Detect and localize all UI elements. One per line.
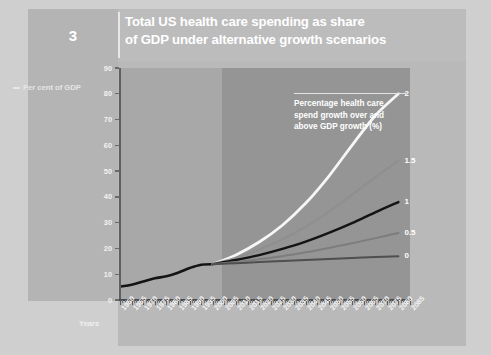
y-tick bbox=[115, 222, 119, 223]
annotation-rule bbox=[294, 93, 406, 94]
y-axis-title: Per cent of GDP bbox=[13, 83, 81, 92]
y-tick-label: 30 bbox=[90, 218, 112, 227]
figure-root: 3 Total US health care spending as share… bbox=[0, 0, 491, 355]
y-tick-label: 0 bbox=[90, 296, 112, 305]
y-tick bbox=[115, 119, 119, 120]
series-label-0-5: 0.5 bbox=[404, 228, 415, 237]
y-tick bbox=[115, 196, 119, 197]
page-title: Total US health care spending as share o… bbox=[125, 13, 461, 48]
y-tick bbox=[115, 145, 119, 146]
y-tick-label: 10 bbox=[90, 270, 112, 279]
series-label-1-5: 1.5 bbox=[404, 156, 415, 165]
y-axis-title-text: Per cent of GDP bbox=[23, 83, 81, 92]
title-line-2: of GDP under alternative growth scenario… bbox=[125, 31, 461, 49]
series-line bbox=[213, 161, 399, 264]
title-divider-rule bbox=[118, 12, 120, 58]
y-tick-label: 80 bbox=[90, 89, 112, 98]
series-label-0: 0 bbox=[404, 251, 408, 260]
y-tick bbox=[115, 274, 119, 275]
y-axis-title-dash bbox=[13, 87, 20, 88]
annotation-box: Percentage health care spend growth over… bbox=[294, 98, 416, 133]
y-tick-label: 50 bbox=[90, 167, 112, 176]
series-line bbox=[120, 264, 213, 286]
series-label-2: 2 bbox=[404, 89, 408, 98]
y-tick-label: 90 bbox=[90, 64, 112, 73]
y-tick bbox=[115, 170, 119, 171]
series-label-1: 1 bbox=[404, 197, 408, 206]
y-tick-label: 60 bbox=[90, 141, 112, 150]
annotation-line-1: Percentage health care bbox=[294, 98, 416, 110]
y-axis-line bbox=[119, 68, 121, 300]
annotation-line-3: above GDP growth (%) bbox=[294, 121, 416, 133]
annotation-line-2: spend growth over and bbox=[294, 110, 416, 122]
y-tick-label: 70 bbox=[90, 115, 112, 124]
y-tick bbox=[115, 299, 119, 300]
y-tick bbox=[115, 248, 119, 249]
figure-number: 3 bbox=[28, 9, 118, 61]
y-tick bbox=[115, 93, 119, 94]
y-tick bbox=[115, 67, 119, 68]
title-line-1: Total US health care spending as share bbox=[125, 13, 461, 31]
x-axis-title: Years bbox=[79, 319, 99, 328]
series-line bbox=[213, 202, 399, 264]
y-tick-label: 20 bbox=[90, 244, 112, 253]
y-tick-label: 40 bbox=[90, 192, 112, 201]
